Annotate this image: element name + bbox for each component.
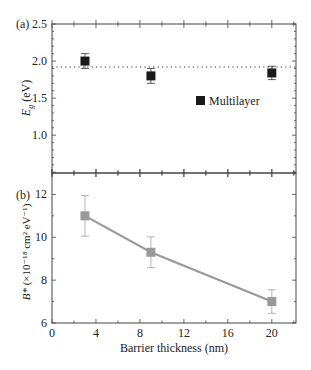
y-axis-label-b-unit: (×10⁻¹⁸ cm² eV⁻¹)	[20, 203, 33, 288]
legend: Multilayer	[196, 94, 260, 108]
data-point-square	[80, 57, 89, 66]
y-tick-label-a: 2.5	[32, 17, 47, 31]
y-tick-label-b: 8	[41, 273, 47, 287]
tick-labels: 0481216201.01.52.02.5681012	[32, 17, 278, 340]
y-tick-label-a: 1.0	[32, 128, 47, 142]
chart: 0481216201.01.52.02.5681012 (a) (b) Mult…	[0, 0, 311, 370]
y-axis-label-b: B* (×10⁻¹⁸ cm² eV⁻¹)	[20, 203, 33, 300]
x-tick-label: 8	[137, 326, 143, 340]
data-point-square	[267, 68, 276, 77]
panel-a-data	[80, 54, 276, 84]
data-point-square	[80, 211, 89, 220]
y-tick-label-b: 10	[35, 230, 47, 244]
legend-label: Multilayer	[209, 94, 260, 108]
y-axis-label-b-main: B*	[20, 288, 32, 301]
y-axis-label-a: Eg (eV)	[19, 80, 35, 117]
y-axis-label-a-unit: (eV)	[19, 80, 33, 105]
y-tick-label-a: 2.0	[32, 54, 47, 68]
trend-line	[85, 216, 272, 302]
x-tick-label: 20	[266, 326, 278, 340]
legend-marker	[196, 96, 205, 105]
x-tick-label: 0	[49, 326, 55, 340]
y-tick-label-a: 1.5	[32, 91, 47, 105]
x-tick-label: 12	[178, 326, 190, 340]
panel-a-label: (a)	[16, 17, 29, 31]
x-tick-label: 4	[93, 326, 99, 340]
data-point-square	[146, 248, 155, 257]
x-tick-label: 16	[222, 326, 234, 340]
y-tick-label-b: 12	[35, 187, 47, 201]
x-axis-label: Barrier thickness (nm)	[120, 341, 228, 355]
panel-b-data	[80, 196, 276, 314]
data-point-square	[146, 71, 155, 80]
panel-b-label: (b)	[16, 188, 30, 202]
y-tick-label-b: 6	[41, 316, 47, 330]
data-point-square	[267, 297, 276, 306]
